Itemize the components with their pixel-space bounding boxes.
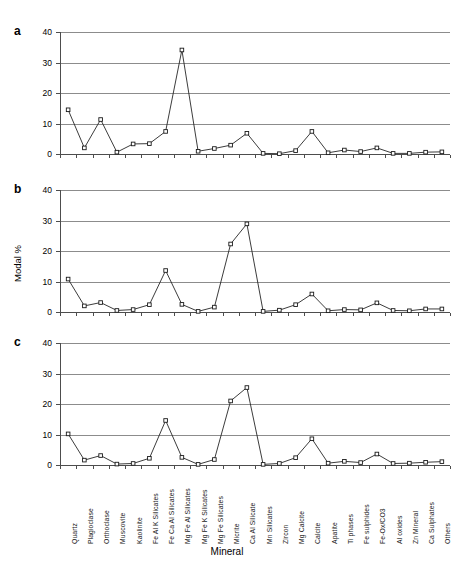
x-tick <box>174 155 175 158</box>
x-tick-label: Al oxides <box>396 516 403 544</box>
data-point-marker <box>375 301 379 305</box>
x-tick <box>353 155 354 158</box>
data-point-marker <box>261 152 265 156</box>
x-tick <box>434 313 435 316</box>
x-tick <box>320 155 321 158</box>
x-tick <box>109 313 110 316</box>
x-tick <box>206 313 207 316</box>
data-point-marker <box>375 146 379 150</box>
y-tick-label: 20 <box>30 399 52 409</box>
x-tick <box>109 155 110 158</box>
x-tick <box>418 313 419 316</box>
x-tick <box>255 313 256 316</box>
panel-letter-a: a <box>14 24 21 38</box>
x-tick <box>125 155 126 158</box>
x-tick <box>450 155 451 158</box>
data-point-marker <box>278 152 282 156</box>
plot-area-c <box>60 343 450 465</box>
x-tick <box>271 313 272 316</box>
x-tick-label: Kaolinite <box>136 517 143 544</box>
data-point-marker <box>164 269 168 273</box>
x-tick-label: Calcite <box>314 523 321 544</box>
x-tick <box>450 466 451 469</box>
x-tick <box>385 155 386 158</box>
x-tick <box>223 155 224 158</box>
data-point-marker <box>99 301 103 305</box>
x-tick-label: Ca Sulphates <box>428 502 435 544</box>
x-tick-label: Muscovite <box>119 513 126 545</box>
y-tick-label: 0 <box>30 460 52 470</box>
x-tick-label: Plagioclase <box>87 508 94 544</box>
data-point-marker <box>180 456 184 460</box>
x-tick-label: Fe-Ox/CO3 <box>379 508 386 544</box>
x-tick-label: Mg Fe Al Silicates <box>184 488 191 544</box>
data-point-marker <box>294 456 298 460</box>
data-point-marker <box>66 108 70 112</box>
x-tick-label: Mg Fe Silicates <box>217 496 224 544</box>
y-tick-label: 20 <box>30 88 52 98</box>
x-tick <box>206 155 207 158</box>
x-tick <box>141 155 142 158</box>
plot-area-b <box>60 190 450 312</box>
data-point-marker <box>326 309 330 313</box>
data-point-marker <box>343 148 347 152</box>
x-tick-label: Fe sulphides <box>363 504 370 544</box>
x-tick <box>255 155 256 158</box>
data-point-marker <box>343 308 347 312</box>
x-tick <box>125 313 126 316</box>
x-tick <box>158 313 159 316</box>
data-point-marker <box>278 308 282 312</box>
data-point-marker <box>245 386 249 390</box>
x-tick <box>60 155 61 158</box>
x-tick <box>239 313 240 316</box>
data-point-marker <box>196 310 200 314</box>
y-tick-label: 0 <box>30 149 52 159</box>
data-point-marker <box>99 118 103 122</box>
data-point-marker <box>408 309 412 313</box>
x-tick-label: Ti phases <box>347 514 354 544</box>
x-tick <box>369 155 370 158</box>
x-tick <box>385 313 386 316</box>
panel-letter-b: b <box>14 182 21 196</box>
data-point-marker <box>359 308 363 312</box>
data-point-marker <box>83 304 87 308</box>
data-point-marker <box>213 147 217 151</box>
data-point-marker <box>148 303 152 307</box>
data-point-marker <box>229 242 233 246</box>
y-tick-label: 10 <box>30 119 52 129</box>
data-point-marker <box>148 142 152 146</box>
data-point-marker <box>99 454 103 458</box>
y-tick-label: 10 <box>30 277 52 287</box>
data-point-marker <box>440 307 444 311</box>
data-point-marker <box>245 222 249 226</box>
data-point-marker <box>245 131 249 135</box>
y-axis-title: Modal % <box>12 229 23 299</box>
x-tick <box>450 313 451 316</box>
data-point-marker <box>164 130 168 134</box>
data-point-marker <box>148 456 152 460</box>
x-tick-label: Apatite <box>331 522 338 544</box>
x-tick <box>141 313 142 316</box>
x-tick <box>271 155 272 158</box>
x-tick-label: Ca Al Silicate <box>249 503 256 544</box>
x-tick-label: Zircon <box>282 525 289 544</box>
data-point-marker <box>66 432 70 436</box>
x-tick <box>76 155 77 158</box>
x-tick <box>304 155 305 158</box>
y-tick-label: 30 <box>30 58 52 68</box>
x-tick <box>336 155 337 158</box>
series-c <box>60 343 450 465</box>
data-point-marker <box>261 310 265 314</box>
data-point-marker <box>115 150 119 154</box>
x-tick <box>369 313 370 316</box>
x-tick <box>320 313 321 316</box>
x-tick <box>401 313 402 316</box>
data-point-marker <box>213 458 217 462</box>
x-tick <box>223 313 224 316</box>
y-tick-label: 40 <box>30 338 52 348</box>
x-tick <box>60 313 61 316</box>
data-point-marker <box>440 150 444 154</box>
data-point-marker <box>180 303 184 307</box>
x-tick <box>401 155 402 158</box>
data-point-marker <box>375 452 379 456</box>
